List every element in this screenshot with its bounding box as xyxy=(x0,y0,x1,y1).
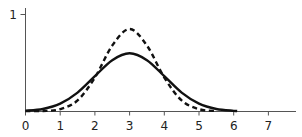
dashed-curve xyxy=(26,29,217,111)
x-tick-label: 4 xyxy=(160,119,168,133)
x-tick: 2 xyxy=(91,112,99,134)
x-tick-label: 6 xyxy=(230,119,238,133)
plot-area: 1 01234567 xyxy=(9,8,296,133)
x-tick: 7 xyxy=(265,112,273,134)
line-chart: 1 01234567 xyxy=(0,0,302,137)
x-tick: 6 xyxy=(230,112,238,134)
y-tick: 1 xyxy=(9,8,25,22)
x-tick-label: 3 xyxy=(126,119,134,133)
series-layer xyxy=(26,29,238,111)
x-tick: 4 xyxy=(160,112,168,134)
x-tick: 5 xyxy=(195,112,203,134)
y-tick-label: 1 xyxy=(9,8,17,22)
y-ticks: 1 xyxy=(9,8,25,22)
x-tick: 3 xyxy=(126,112,134,134)
x-tick-label: 1 xyxy=(56,119,64,133)
x-tick-label: 7 xyxy=(265,119,273,133)
solid-curve xyxy=(26,53,238,111)
x-tick: 1 xyxy=(56,112,64,134)
x-tick-label: 2 xyxy=(91,119,99,133)
x-ticks: 01234567 xyxy=(22,112,273,134)
x-tick-label: 0 xyxy=(22,119,30,133)
x-tick: 0 xyxy=(22,112,30,134)
x-tick-label: 5 xyxy=(195,119,203,133)
